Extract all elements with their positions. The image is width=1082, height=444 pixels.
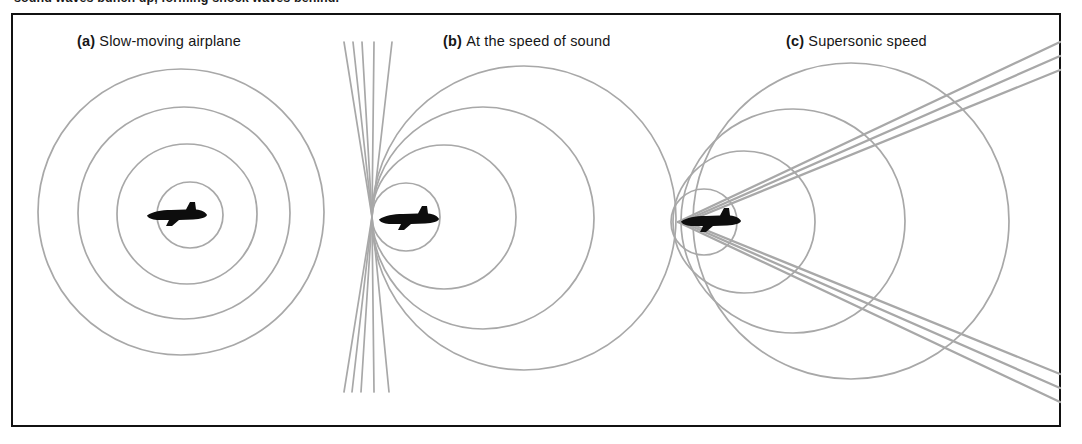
panel-a-tag: (a) bbox=[77, 33, 95, 49]
panel-c-label: (c) Supersonic speed bbox=[786, 33, 927, 49]
panel-c-tag: (c) bbox=[786, 33, 804, 49]
figure-top-caption: sound waves bunch up, forming shock wave… bbox=[14, 0, 1064, 7]
panel-b-tag: (b) bbox=[443, 33, 462, 49]
panel-a-label-text: Slow-moving airplane bbox=[99, 33, 241, 49]
panel-c-label-text: Supersonic speed bbox=[808, 33, 926, 49]
panel-a-label: (a) Slow-moving airplane bbox=[77, 33, 241, 49]
figure-root: sound waves bunch up, forming shock wave… bbox=[0, 0, 1082, 444]
figure-frame-border bbox=[11, 13, 1061, 427]
panel-b-label-text: At the speed of sound bbox=[466, 33, 610, 49]
panel-b-label: (b) At the speed of sound bbox=[443, 33, 610, 49]
